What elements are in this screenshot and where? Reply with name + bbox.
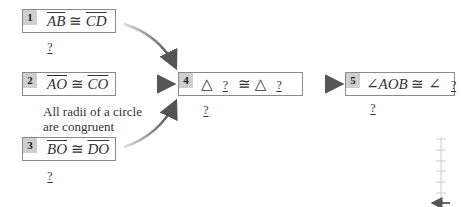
step-number: 4 (179, 73, 193, 88)
triangle-icon: △ (201, 76, 213, 92)
step-1-reason-blank[interactable]: ? (40, 40, 60, 55)
step-4-reason-blank[interactable]: ? (196, 103, 216, 118)
step-1-box: 1 AB ≅ CD (22, 9, 116, 33)
step-statement: AO ≅ CO (47, 75, 108, 93)
step-number: 5 (346, 73, 360, 88)
step-statement: BO ≅ DO (47, 140, 109, 158)
step-5-box: 5 ∠AOB ≅ ∠ ? (345, 72, 455, 96)
partial-grid (436, 137, 446, 200)
step-number: 3 (23, 138, 37, 153)
step-statement: AB ≅ CD (47, 12, 107, 30)
step-2-reason: All radii of a circle are congruent (43, 104, 142, 134)
step-statement: ∠AOB ≅ ∠ ? (366, 75, 461, 94)
blank-triangle-1[interactable]: ? (216, 76, 234, 94)
step-statement: △ ? ≅ △ ? (201, 75, 288, 94)
arrow-1-to-4 (124, 24, 176, 68)
step-2-box: 2 AO ≅ CO (22, 72, 116, 96)
step-3-reason-blank[interactable]: ? (40, 169, 60, 184)
blank-angle[interactable]: ? (445, 76, 461, 94)
step-5-reason-blank[interactable]: ? (363, 101, 383, 116)
step-number: 2 (23, 73, 37, 88)
blank-triangle-2[interactable]: ? (270, 76, 288, 94)
triangle-icon: △ (255, 76, 267, 92)
step-3-box: 3 BO ≅ DO (22, 137, 116, 161)
step-number: 1 (23, 10, 37, 25)
step-4-box: 4 △ ? ≅ △ ? (178, 72, 303, 96)
